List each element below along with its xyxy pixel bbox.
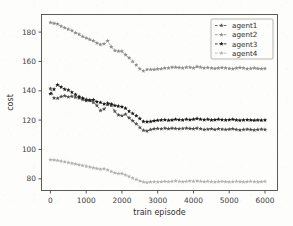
x-tick-label: 6000 (256, 196, 275, 205)
y-tick-label: 160 (22, 57, 36, 66)
legend-label: agent3 (232, 40, 257, 49)
y-tick-label: 140 (22, 86, 36, 95)
x-tick-label: 2000 (113, 196, 132, 205)
legend-label: agent1 (232, 21, 257, 30)
chart-legend[interactable]: agent1agent2agent3agent4 (211, 19, 273, 59)
x-tick-label: 3000 (148, 196, 167, 205)
x-tick-label: 1000 (77, 196, 96, 205)
x-tick-label: 0 (48, 196, 53, 205)
chart-figure: 0100020003000400050006000801001201401601… (0, 0, 293, 226)
y-tick-label: 80 (27, 174, 37, 183)
x-tick-label: 5000 (220, 196, 239, 205)
line-chart: 0100020003000400050006000801001201401601… (0, 0, 293, 226)
legend-label: agent4 (232, 49, 258, 58)
x-axis-label: train episode (133, 208, 186, 217)
y-tick-label: 100 (22, 145, 36, 154)
legend-label: agent2 (232, 30, 257, 39)
x-tick-label: 4000 (184, 196, 203, 205)
y-tick-label: 120 (22, 116, 36, 125)
y-axis-label: cost (6, 94, 15, 111)
y-tick-label: 180 (22, 28, 36, 37)
